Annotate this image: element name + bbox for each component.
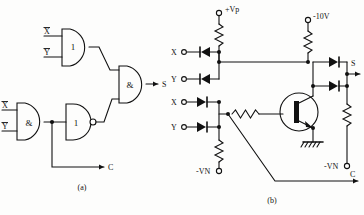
caption-a: (a): [78, 183, 87, 192]
inverter-bubble-icon: [90, 119, 96, 125]
label-supply-vn-left: -VN: [196, 167, 210, 176]
circuit-figure: X Y X Y 1 & 1 & S C (a) X Y X Y +Vp -10V…: [0, 0, 364, 215]
gate-symbol-and-out: &: [126, 80, 133, 90]
label-output-s-a: S: [162, 80, 166, 89]
gate-symbol-or-top: 1: [71, 42, 76, 52]
junction-dot-emitter: [311, 126, 315, 130]
caption-b: (b): [267, 196, 277, 205]
label-output-c-b: C: [350, 170, 355, 179]
label-output-c-a: C: [108, 163, 113, 172]
junction-dot-rail: [306, 60, 310, 64]
label-output-s-b: S: [351, 59, 355, 68]
junction-dot-b1: [217, 50, 221, 54]
label-a-y: Y: [2, 122, 8, 131]
junction-dot-b4: [217, 125, 221, 129]
label-b-x2: X: [171, 98, 177, 107]
label-supply-vn-right: -VN: [324, 162, 338, 171]
transistor-base-bar: [294, 101, 299, 123]
label-b-y1: Y: [171, 75, 177, 84]
label-b-y2: Y: [171, 123, 177, 132]
junction-dot-b3: [217, 100, 221, 104]
label-a-x: X: [2, 101, 8, 110]
gate-symbol-and-left: &: [25, 118, 32, 128]
label-supply-vp: +Vp: [225, 5, 239, 14]
label-a-ybar: Y: [44, 48, 50, 57]
label-supply-neg10v: -10V: [313, 12, 330, 21]
label-a-xbar: X: [44, 27, 50, 36]
label-b-x1: X: [171, 48, 177, 57]
gate-symbol-or-mid: 1: [74, 118, 79, 128]
figure-canvas: X Y X Y 1 & 1 & S C (a) X Y X Y +Vp -10V…: [0, 0, 364, 215]
